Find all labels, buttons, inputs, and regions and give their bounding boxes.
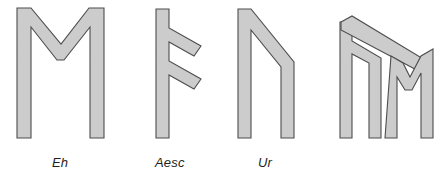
rune-label-eh: Eh <box>52 155 68 171</box>
rune-label-layer: Eh Aesc Ur <box>0 0 446 180</box>
rune-figure: Eh Aesc Ur <box>0 0 446 180</box>
rune-label-aesc: Aesc <box>155 155 185 171</box>
rune-label-ur: Ur <box>258 155 272 171</box>
